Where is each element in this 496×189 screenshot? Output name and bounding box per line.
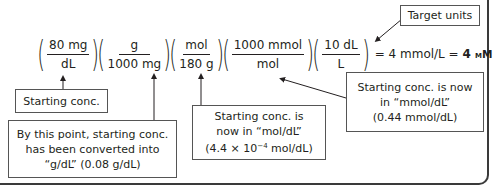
callout-line: Starting conc. is	[193, 109, 325, 124]
numerator: 10 dL	[322, 38, 359, 55]
exponent: −4	[257, 142, 267, 150]
callout-line: Starting conc. is now	[347, 80, 483, 95]
factor-1: ( 80 mgdL )	[38, 36, 98, 72]
equation-result: = 4 mmol/L = 4 mM	[375, 47, 493, 61]
callout-grams: By this point, starting conc. has been c…	[8, 120, 177, 178]
numerator: 80 mg	[47, 38, 89, 55]
left-paren: (	[37, 36, 45, 72]
denominator: 180 g	[179, 55, 213, 71]
left-paren: (	[312, 36, 320, 72]
denominator: 1000 mg	[108, 55, 162, 71]
exponent-suffix: mol/dL)	[268, 142, 313, 155]
factor-4: ( 1000 mmolmol )	[223, 36, 314, 72]
factor-5: ( 10 dLL )	[313, 36, 368, 72]
numerator: mol	[183, 38, 209, 55]
denominator: L	[338, 55, 345, 71]
callout-line: (0.44 mmol/dL)	[347, 110, 483, 125]
result-unit: mM	[475, 48, 492, 60]
denominator: mol	[257, 55, 279, 71]
result-prefix: = 4 mmol/L =	[375, 47, 459, 61]
denominator: dL	[61, 55, 75, 71]
right-paren: )	[362, 36, 370, 72]
factor-3: ( mol180 g )	[170, 36, 222, 72]
callout-millimoles: Starting conc. is now in “mmol/dL” (0.44…	[346, 72, 484, 132]
callout-text: Starting conc.	[16, 94, 107, 109]
left-paren: (	[98, 36, 106, 72]
callout-text: Target units	[401, 8, 479, 23]
left-paren: (	[169, 36, 177, 72]
numerator: g	[119, 38, 151, 55]
result-value: 4	[463, 47, 471, 61]
callout-line: (4.4 × 10−4 mol/dL)	[193, 139, 325, 156]
callout-moles: Starting conc. is now in “mol/dL” (4.4 ×…	[192, 105, 326, 160]
factor-2: ( g1000 mg )	[98, 36, 170, 72]
callout-line: “g/dL” (0.08 g/dL)	[9, 157, 176, 172]
exponent-base: (4.4 × 10	[205, 142, 257, 155]
callout-line: in “mmol/dL”	[347, 95, 483, 110]
callout-line: has been converted into	[9, 142, 176, 157]
conversion-equation: ( 80 mgdL ) ( g1000 mg ) ( mol180 g ) ( …	[38, 34, 492, 74]
arrow-millimoles	[282, 79, 346, 98]
left-paren: (	[222, 36, 230, 72]
numerator: 1000 mmol	[232, 38, 304, 55]
callout-starting-conc: Starting conc.	[15, 89, 108, 113]
callout-line: now in “mol/dL”	[193, 124, 325, 139]
callout-line: By this point, starting conc.	[9, 127, 176, 142]
callout-target-units: Target units	[400, 5, 480, 26]
